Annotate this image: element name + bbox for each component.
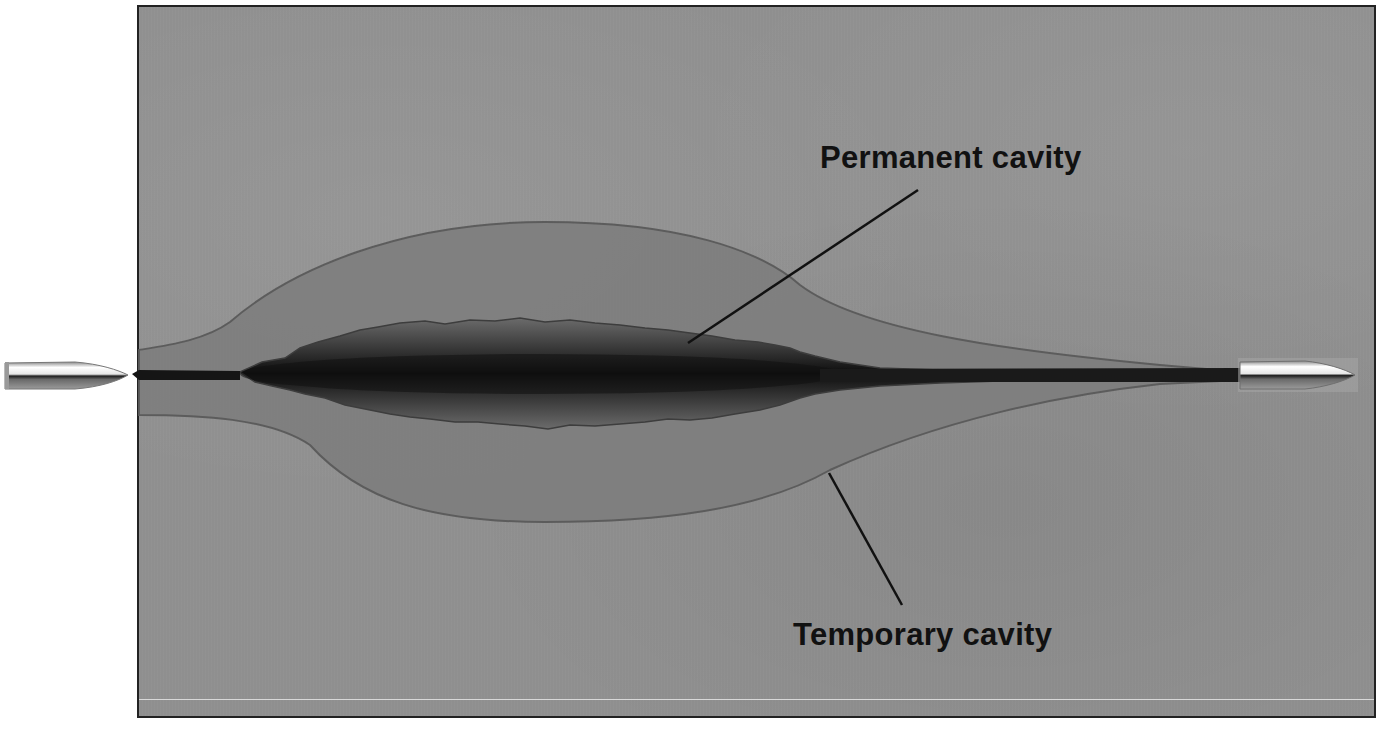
temporary-cavity-label: Temporary cavity bbox=[793, 617, 1052, 653]
exit-bullet-icon bbox=[1238, 358, 1358, 392]
permanent-cavity-label: Permanent cavity bbox=[820, 140, 1082, 176]
cavity-diagram bbox=[0, 0, 1391, 730]
temporary-cavity-leader-line bbox=[829, 473, 902, 605]
entry-bullet-icon bbox=[5, 362, 128, 389]
